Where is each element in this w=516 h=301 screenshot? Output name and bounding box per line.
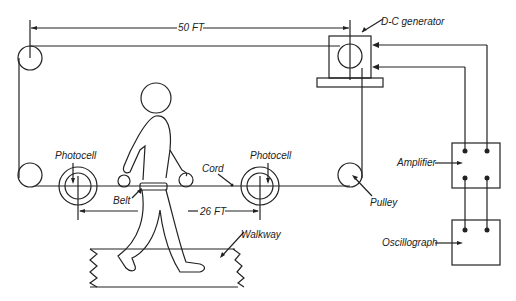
label-amplifier: Amplifier (396, 157, 437, 168)
walking-measurement-diagram: 50 FT D-C generator Ampl (0, 0, 516, 301)
head (141, 83, 171, 113)
label-photocell-right: Photocell (250, 150, 292, 161)
cord-loop (19, 46, 362, 187)
label-walkway: Walkway (241, 229, 282, 240)
label-50ft: 50 FT (178, 22, 205, 33)
pulley-bottom-left (18, 163, 42, 187)
left-hand (118, 175, 130, 187)
label-photocell-left: Photocell (55, 150, 97, 161)
label-belt: Belt (113, 195, 131, 206)
photocell-left: Photocell (55, 150, 97, 220)
label-cord: Cord (202, 163, 224, 174)
walking-figure (118, 83, 205, 272)
photocell-right: Photocell (241, 150, 292, 220)
label-dc-generator: D-C generator (381, 16, 445, 27)
oscillograph: Oscillograph (382, 220, 500, 265)
dimension-26ft: 26 FT (79, 206, 259, 217)
dc-generator: D-C generator (317, 16, 445, 87)
label-oscillograph: Oscillograph (382, 237, 438, 248)
wires-generator-amplifier (372, 42, 487, 150)
label-26ft: 26 FT (199, 206, 227, 217)
dimension-50ft: 50 FT (30, 20, 350, 80)
pulley-bottom-right (338, 163, 362, 187)
amplifier: Amplifier (396, 143, 500, 188)
label-pulley: Pulley (370, 197, 398, 208)
